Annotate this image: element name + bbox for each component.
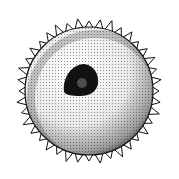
illustration xyxy=(0,0,179,179)
spore-illustration xyxy=(0,0,179,179)
